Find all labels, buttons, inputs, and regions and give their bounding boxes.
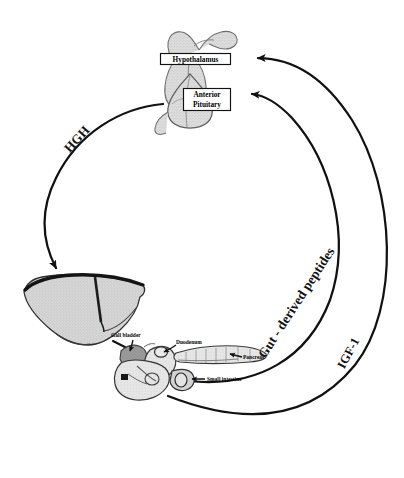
cystic-duct [144, 344, 155, 347]
anterior-pituitary-label: Anterior Pituitary [184, 89, 231, 111]
gut-organ-cluster [114, 344, 266, 401]
endocrine-loop-figure: Hypothalamus Anterior Pituitary [0, 0, 404, 478]
hypothalamus-label: Hypothalamus [161, 54, 231, 65]
igf1-label-group: IGF-1 [335, 335, 363, 370]
duodenum-label: Duodenum [176, 339, 202, 345]
anterior-pituitary-label-line2: Pituitary [193, 100, 221, 109]
hgh-label: HGH [61, 123, 92, 156]
gall-bladder-label: Gall bladder [111, 332, 141, 338]
hypothalamus-pituitary-group: Hypothalamus Anterior Pituitary [155, 31, 237, 134]
small-intestine-lumen [175, 373, 187, 387]
hgh-label-group: HGH [61, 123, 92, 156]
gut-peptides-label-group: Gut - derived peptides [255, 245, 338, 361]
stomach-body [114, 360, 169, 400]
anterior-pituitary-label-line1: Anterior [193, 90, 221, 99]
pituitary-left-tail [155, 112, 168, 134]
pathway-hgh [45, 104, 163, 268]
duct-marker-block [121, 374, 128, 380]
diagram-canvas: Hypothalamus Anterior Pituitary [0, 0, 404, 478]
igf1-label: IGF-1 [335, 335, 363, 370]
duodenum-lumen-superior [155, 347, 168, 357]
hgh-arrow-path [45, 104, 163, 268]
gut-peptides-label: Gut - derived peptides [255, 245, 338, 361]
hypothalamus-label-text: Hypothalamus [173, 55, 219, 64]
small-intestine-label: Small intestine [207, 376, 242, 382]
